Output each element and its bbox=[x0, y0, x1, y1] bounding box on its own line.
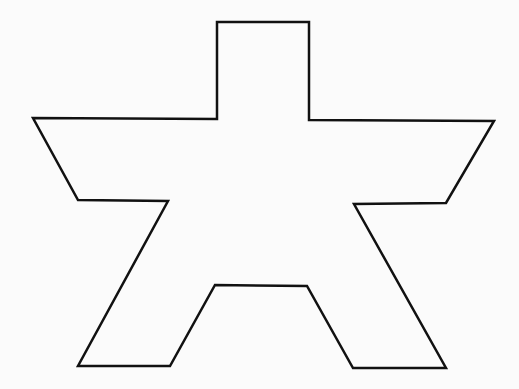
diagram-svg bbox=[0, 0, 519, 389]
star-polygon-shape bbox=[33, 22, 494, 368]
diagram-canvas bbox=[0, 0, 519, 389]
